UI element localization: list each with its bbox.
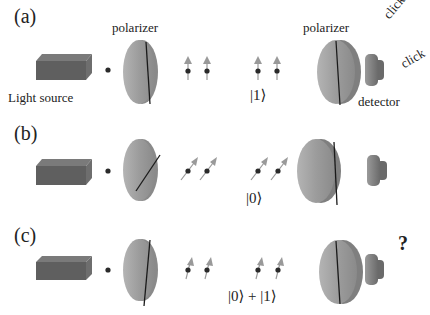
detector-icon — [365, 254, 384, 285]
panel-label-a: (a) — [14, 5, 36, 28]
photon-vertical-icon — [273, 56, 281, 80]
photon-tilted-icon — [275, 257, 284, 279]
polarizer-icon — [319, 240, 363, 304]
photon-tilted-icon — [185, 257, 194, 279]
state-ket-c: |0⟩ + |1⟩ — [228, 287, 277, 305]
polarizer-icon — [297, 139, 341, 205]
polarizer-icon — [123, 40, 158, 104]
light-source-label: Light source — [8, 90, 73, 106]
panel-label-c: (c) — [14, 224, 36, 247]
photon-dot-icon — [105, 67, 110, 72]
polarizer-icon — [123, 139, 160, 201]
light-source-icon — [36, 256, 92, 280]
photon-vertical-icon — [254, 56, 262, 80]
state-ket-b: |0⟩ — [246, 189, 262, 207]
detector-label: detector — [358, 94, 400, 110]
polarization-diagram — [0, 0, 430, 315]
photon-dot-icon — [105, 168, 110, 173]
light-source-icon — [36, 54, 92, 80]
panel-label-b: (b) — [14, 122, 37, 145]
photon-vertical-icon — [203, 56, 211, 80]
photon-tilted-icon — [204, 257, 213, 279]
photon-diagonal-icon — [200, 157, 217, 180]
light-source-icon — [36, 159, 92, 185]
polarizer-icon — [317, 40, 361, 105]
polarizer-label: polarizer — [303, 20, 349, 36]
panel-a — [36, 40, 384, 105]
panel-b — [36, 139, 387, 205]
photon-vertical-icon — [184, 56, 192, 80]
panel-c — [36, 239, 384, 306]
photon-tilted-icon — [255, 257, 264, 279]
photon-dot-icon — [105, 267, 110, 272]
detector-icon — [365, 54, 384, 86]
unknown-outcome-label: ? — [398, 232, 408, 255]
detector-icon — [367, 155, 387, 186]
photon-diagonal-icon — [271, 157, 288, 180]
polarizer-icon — [123, 239, 158, 306]
photon-diagonal-icon — [181, 157, 198, 180]
state-ket-a: |1⟩ — [250, 86, 266, 104]
photon-diagonal-icon — [251, 157, 268, 180]
polarizer-label: polarizer — [112, 20, 158, 36]
